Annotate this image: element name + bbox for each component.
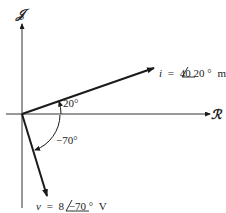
phasor-diagram: 𝒥 ℛ 20° −70° i = 40 20 ° mA [0, 0, 226, 213]
current-unit: mA [217, 67, 226, 79]
voltage-equals: = [47, 200, 53, 212]
current-angle-label: 20° [63, 97, 78, 109]
voltage-unit: V [99, 200, 107, 212]
voltage-phasor [22, 114, 47, 196]
current-phasor [22, 68, 154, 114]
current-degree: ° [207, 67, 211, 79]
current-var: i [159, 67, 162, 79]
current-phasor-label: i = 40 20 ° mA [159, 67, 226, 79]
voltage-angle-arc: −70° [35, 115, 78, 150]
voltage-angle-label: −70° [56, 134, 78, 146]
voltage-degree: ° [89, 200, 93, 212]
imaginary-axis-label: 𝒥 [15, 6, 30, 22]
voltage-var: v [36, 200, 41, 212]
imaginary-axis: 𝒥 [15, 6, 30, 208]
current-angle: 20 [194, 67, 206, 79]
real-axis-label: ℛ [211, 107, 223, 122]
voltage-magnitude: 8 [59, 200, 65, 212]
current-equals: = [168, 67, 174, 79]
voltage-phasor-label: v = 8 −70 ° V [36, 200, 107, 212]
